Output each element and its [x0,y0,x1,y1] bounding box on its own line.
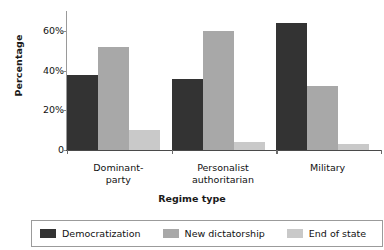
y-tick-0: 0 [20,144,64,156]
legend-label-democratization: Democratization [62,228,141,239]
category-label-personalist-authoritarian: Personalistauthoritarian [171,162,276,185]
plot-area: Percentage 020%40%60% Dominant-partyPers… [0,8,384,208]
category-label-line: authoritarian [171,174,276,186]
x-axis-label: Regime type [0,193,384,204]
legend-swatch-icon-new-dictatorship [163,229,179,238]
x-tick-mark [172,150,173,154]
legend-swatch-icon-end-of-state [287,229,303,238]
bar-group [276,11,369,150]
y-tick-label: 20% [26,104,64,115]
y-tick-60: 60% [20,25,64,37]
x-axis-line [66,150,381,151]
bar [67,75,98,150]
category-label-line: party [66,174,171,186]
category-labels: Dominant-partyPersonalistauthoritarianMi… [66,158,381,192]
category-label-military: Military [275,162,380,174]
bar [338,144,369,150]
bar [129,130,160,150]
bar [307,86,338,150]
bar [276,23,307,150]
category-label-line: Military [275,162,380,174]
x-tick-mark [381,150,382,154]
bar-group [172,11,265,150]
y-tick-20: 20% [20,104,64,116]
x-tick-mark [67,150,68,154]
legend-label-end-of-state: End of state [309,228,366,239]
bar [172,79,203,150]
y-tick-label: 0 [26,144,64,155]
bar [234,142,265,150]
category-label-line: Personalist [171,162,276,174]
legend-label-new-dictatorship: New dictatorship [185,228,265,239]
legend-item-new-dictatorship: New dictatorship [163,228,265,239]
legend-item-democratization: Democratization [40,228,141,239]
bar-chart-figure: Percentage 020%40%60% Dominant-partyPers… [0,0,384,250]
legend-swatch-icon-democratization [40,229,56,238]
chart-legend: Democratization New dictatorship End of … [31,220,383,247]
category-label-dominant-party: Dominant-party [66,162,171,185]
y-tick-label: 40% [26,65,64,76]
y-tick-40: 40% [20,65,64,77]
y-tick-label: 60% [26,25,64,36]
x-tick-mark [276,150,277,154]
bar-group [67,11,160,150]
bar [203,31,234,150]
bar [98,47,129,150]
category-label-line: Dominant- [66,162,171,174]
bars-container [67,11,381,150]
legend-item-end-of-state: End of state [287,228,366,239]
